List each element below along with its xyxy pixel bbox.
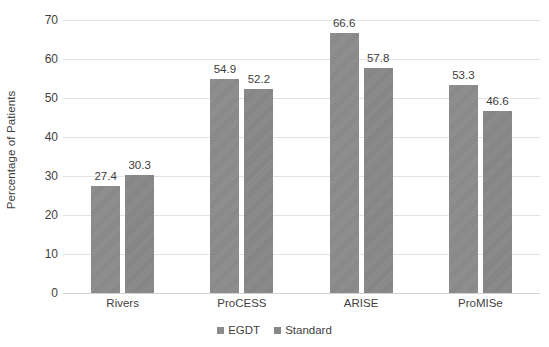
y-tick-label: 30 [24, 169, 58, 183]
category-label-promise: ProMISe [420, 297, 540, 309]
bar-value-label: 27.4 [83, 170, 129, 182]
legend-item-egdt[interactable]: EGDT [217, 324, 260, 336]
bar-value-label: 57.8 [355, 52, 401, 64]
legend-label: Standard [285, 324, 332, 336]
bar-promise-standard[interactable] [483, 111, 512, 293]
bar-value-label: 46.6 [474, 95, 520, 107]
bar-value-label: 53.3 [440, 69, 486, 81]
y-axis-tick-labels: 010203040506070 [20, 20, 58, 293]
chart-legend: EGDTStandard [0, 324, 549, 336]
x-axis-category-labels: RiversProCESSARISEProMISe [63, 297, 540, 317]
bar-process-egdt[interactable] [210, 79, 239, 293]
y-tick-label: 20 [24, 208, 58, 222]
y-tick-label: 0 [24, 286, 58, 300]
category-label-rivers: Rivers [63, 297, 183, 309]
y-tick-label: 10 [24, 247, 58, 261]
bar-value-label: 66.6 [321, 17, 367, 29]
gridline [63, 59, 540, 60]
bar-rivers-standard[interactable] [125, 175, 154, 293]
bar-arise-standard[interactable] [364, 68, 393, 293]
bar-value-label: 30.3 [117, 159, 163, 171]
bar-value-label: 52.2 [236, 73, 282, 85]
y-tick-label: 50 [24, 91, 58, 105]
category-label-arise: ARISE [301, 297, 421, 309]
y-axis-title-text: Percentage of Patients [5, 91, 17, 210]
bar-arise-egdt[interactable] [330, 33, 359, 293]
legend-item-standard[interactable]: Standard [274, 324, 332, 336]
gridline [63, 20, 540, 21]
category-label-process: ProCESS [182, 297, 302, 309]
y-axis-title: Percentage of Patients [0, 0, 22, 300]
y-tick-label: 60 [24, 52, 58, 66]
bar-chart: Percentage of Patients 010203040506070 2… [0, 0, 549, 347]
gridline [63, 293, 540, 294]
plot-area: 27.430.354.952.266.657.853.346.6 [63, 20, 540, 293]
legend-swatch-icon [217, 327, 224, 334]
legend-label: EGDT [228, 324, 260, 336]
legend-swatch-icon [274, 327, 281, 334]
bar-rivers-egdt[interactable] [91, 186, 120, 293]
bar-process-standard[interactable] [244, 89, 273, 293]
y-tick-label: 70 [24, 13, 58, 27]
bar-promise-egdt[interactable] [449, 85, 478, 293]
y-tick-label: 40 [24, 130, 58, 144]
